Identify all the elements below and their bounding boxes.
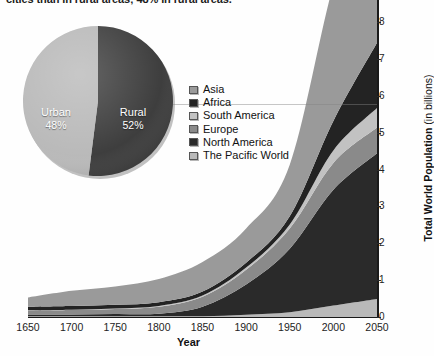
y-tick-5: 5	[379, 128, 395, 138]
legend-label: South America	[203, 109, 275, 122]
y-tick-mark-0	[377, 317, 381, 318]
y-tick-6: 6	[379, 91, 395, 101]
y-tick-7: 7	[379, 54, 395, 64]
x-tick-1650: 1650	[8, 321, 48, 333]
pie-label-urban-value: 48%	[24, 119, 88, 132]
y-tick-mark-5	[377, 133, 381, 134]
y-tick-mark-3	[377, 206, 381, 207]
y-tick-2: 2	[379, 238, 395, 248]
pie-shading-overlay	[23, 26, 173, 176]
x-tick-1750: 1750	[95, 321, 135, 333]
x-tick-1700: 1700	[52, 321, 92, 333]
legend-item-the-pacific-world[interactable]: The Pacific World	[189, 149, 289, 162]
legend-item-europe[interactable]: Europe	[189, 123, 289, 136]
y-axis-title-main: Total World Population	[422, 128, 434, 242]
pie-label-rural-value: 52%	[102, 119, 164, 132]
legend-swatch-icon	[189, 125, 198, 133]
y-tick-3: 3	[379, 201, 395, 211]
y-axis-title-units: (in billions)	[422, 74, 434, 127]
y-tick-mark-1	[377, 280, 381, 281]
legend-item-africa[interactable]: Africa	[189, 96, 289, 109]
legend-item-asia[interactable]: Asia	[189, 83, 289, 96]
y-tick-mark-2	[377, 243, 381, 244]
legend-swatch-icon	[189, 99, 198, 107]
pie-label-rural-name: Rural	[120, 106, 146, 118]
x-tick-1850: 1850	[183, 321, 223, 333]
x-tick-1800: 1800	[139, 321, 179, 333]
legend-label: Africa	[203, 96, 231, 109]
pie-label-urban: Urban 48%	[24, 106, 88, 132]
x-tick-2050: 2050	[357, 321, 397, 333]
legend-label: Europe	[203, 123, 238, 136]
pie-label-urban-name: Urban	[41, 106, 71, 118]
y-tick-mark-4	[377, 170, 381, 171]
chart-legend: AsiaAfricaSouth AmericaEuropeNorth Ameri…	[189, 83, 289, 162]
y-tick-8: 8	[379, 17, 395, 27]
legend-item-north-america[interactable]: North America	[189, 136, 289, 149]
y-tick-mark-8	[377, 22, 381, 23]
legend-swatch-icon	[189, 152, 198, 160]
y-axis-line	[377, 0, 379, 318]
x-axis-title: Year	[0, 336, 377, 348]
pie-label-rural: Rural 52%	[102, 106, 164, 132]
legend-label: Asia	[203, 83, 224, 96]
pie-svg	[20, 22, 178, 180]
legend-swatch-icon	[189, 86, 198, 94]
y-tick-4: 4	[379, 165, 395, 175]
y-tick-1: 1	[379, 275, 395, 285]
y-tick-mark-6	[377, 96, 381, 97]
legend-label: North America	[203, 136, 273, 149]
legend-label: The Pacific World	[203, 149, 289, 162]
legend-item-south-america[interactable]: South America	[189, 109, 289, 122]
x-tick-2000: 2000	[313, 321, 353, 333]
y-tick-mark-7	[377, 59, 381, 60]
urban-rural-pie-chart: Urban 48% Rural 52%	[20, 22, 178, 180]
legend-swatch-icon	[189, 138, 198, 146]
x-tick-1900: 1900	[226, 321, 266, 333]
y-axis-title: Total World Population (in billions)	[422, 74, 434, 241]
legend-swatch-icon	[189, 112, 198, 120]
x-tick-1950: 1950	[270, 321, 310, 333]
x-axis-line	[28, 317, 378, 319]
